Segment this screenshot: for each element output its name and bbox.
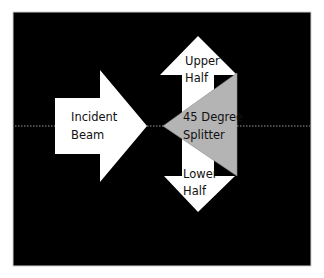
incident-label-line1: Incident [71, 110, 118, 124]
lower-label-line2: Half [183, 184, 207, 198]
lower-label-line1: Lower [183, 167, 218, 181]
splitter-label-line1: 45 Degree [183, 110, 243, 124]
splitter-label-line2: Splitter [183, 128, 225, 142]
incident-label-line2: Beam [71, 128, 104, 142]
upper-label-line1: Upper [185, 54, 220, 68]
beam-splitter-diagram: Incident Beam Upper Half 45 Degree Split… [0, 0, 324, 278]
upper-label-line2: Half [185, 71, 209, 85]
